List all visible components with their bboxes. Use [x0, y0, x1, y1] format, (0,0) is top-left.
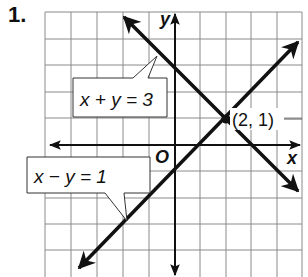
- intersection-label: (2, 1): [232, 110, 274, 130]
- x-axis-label: x: [286, 148, 298, 168]
- line-x-minus-y-eq-1: [79, 42, 298, 268]
- origin-label: O: [155, 147, 169, 167]
- equation-label-1: x + y = 3: [79, 89, 153, 110]
- intersection-point: [222, 115, 231, 124]
- equation-label-2: x − y = 1: [33, 166, 107, 187]
- y-axis-label: y: [159, 9, 171, 29]
- coordinate-graph: x + y = 3 x − y = 1 (2, 1) O x y: [0, 0, 308, 277]
